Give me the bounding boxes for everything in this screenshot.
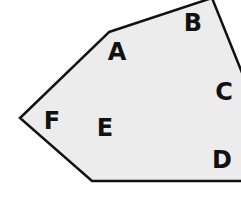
polygon-shape	[20, 0, 241, 181]
label-c: C	[215, 80, 233, 104]
label-b: B	[184, 11, 202, 35]
label-e: E	[97, 116, 113, 140]
label-f: F	[44, 109, 60, 133]
polygon-diagram	[0, 0, 241, 206]
label-d: D	[212, 148, 232, 172]
label-a: A	[108, 40, 127, 64]
